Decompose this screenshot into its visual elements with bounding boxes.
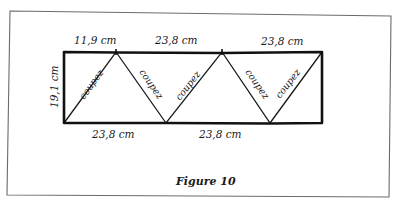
dim-height-left: 19,1 cm xyxy=(48,65,60,108)
dim-top-third: 23,8 cm xyxy=(260,35,304,47)
cut-label-1: coupez xyxy=(77,67,106,102)
dim-bottom-first: 23,8 cm xyxy=(91,128,135,140)
cut-label-2: coupez xyxy=(137,67,166,102)
dim-bottom-second: 23,8 cm xyxy=(198,128,242,140)
cut-label-4: coupez xyxy=(243,67,272,102)
dim-top-second: 23,8 cm xyxy=(154,34,198,46)
cut-label-3: coupez xyxy=(173,68,203,102)
figure-caption: Figure 10 xyxy=(175,175,236,188)
dim-top-first: 11,9 cm xyxy=(74,34,117,46)
figure-10-diagram: 11,9 cm 23,8 cm 23,8 cm 19,1 cm 23,8 cm … xyxy=(0,0,398,208)
